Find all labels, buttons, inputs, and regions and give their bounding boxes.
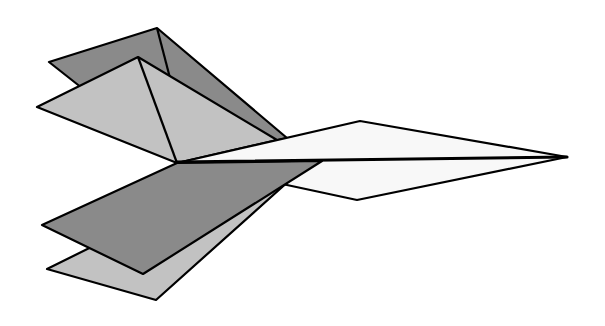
airplane-svg	[0, 0, 605, 326]
airplane-diagram	[0, 0, 605, 326]
